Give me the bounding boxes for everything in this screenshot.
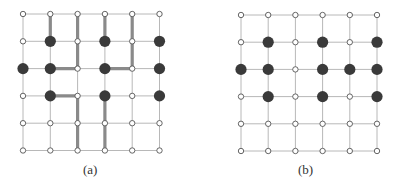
filled-node	[235, 64, 246, 75]
grid-lines	[23, 14, 160, 151]
filled-node	[45, 36, 56, 47]
open-node	[130, 148, 135, 153]
open-node	[320, 121, 325, 126]
open-node	[130, 11, 135, 16]
open-node	[238, 94, 243, 99]
open-node	[75, 148, 80, 153]
open-node	[347, 12, 352, 17]
open-node	[157, 148, 162, 153]
filled-node	[154, 36, 165, 47]
open-node	[130, 66, 135, 71]
open-node	[48, 121, 53, 126]
filled-node	[371, 37, 382, 48]
panel-b	[235, 12, 382, 153]
open-node	[75, 93, 80, 98]
filled-node	[154, 90, 165, 101]
filled-node	[317, 91, 328, 102]
filled-node	[371, 64, 382, 75]
open-node	[75, 66, 80, 71]
open-node	[293, 94, 298, 99]
open-node	[266, 12, 271, 17]
nodes	[235, 12, 382, 153]
filled-node	[371, 91, 382, 102]
open-node	[238, 148, 243, 153]
open-node	[102, 121, 107, 126]
filled-node	[154, 63, 165, 74]
open-node	[266, 121, 271, 126]
open-node	[130, 39, 135, 44]
open-node	[293, 12, 298, 17]
lattice-diagram	[0, 0, 396, 186]
filled-node	[99, 90, 110, 101]
open-node	[75, 121, 80, 126]
grid-lines	[241, 15, 377, 151]
open-node	[20, 93, 25, 98]
open-node	[157, 121, 162, 126]
filled-node	[263, 64, 274, 75]
open-node	[130, 121, 135, 126]
open-node	[347, 94, 352, 99]
open-node	[374, 121, 379, 126]
open-node	[102, 11, 107, 16]
open-node	[374, 148, 379, 153]
open-node	[102, 148, 107, 153]
open-node	[374, 12, 379, 17]
open-node	[293, 121, 298, 126]
filled-node	[45, 63, 56, 74]
filled-node	[317, 37, 328, 48]
open-node	[320, 12, 325, 17]
open-node	[347, 121, 352, 126]
open-node	[293, 148, 298, 153]
panel-a-label: (a)	[83, 162, 97, 178]
filled-node	[263, 91, 274, 102]
open-node	[266, 148, 271, 153]
open-node	[347, 148, 352, 153]
open-node	[238, 121, 243, 126]
open-node	[130, 93, 135, 98]
open-node	[293, 40, 298, 45]
filled-node	[317, 64, 328, 75]
open-node	[347, 40, 352, 45]
open-node	[20, 148, 25, 153]
open-node	[157, 11, 162, 16]
open-node	[48, 148, 53, 153]
open-node	[75, 11, 80, 16]
filled-node	[99, 63, 110, 74]
filled-node	[263, 37, 274, 48]
open-node	[293, 67, 298, 72]
open-node	[48, 11, 53, 16]
nodes	[17, 11, 165, 153]
filled-node	[17, 63, 28, 74]
filled-node	[99, 36, 110, 47]
open-node	[20, 121, 25, 126]
open-node	[320, 148, 325, 153]
open-node	[238, 40, 243, 45]
open-node	[20, 11, 25, 16]
highlight-paths	[50, 14, 132, 151]
filled-node	[344, 64, 355, 75]
filled-node	[45, 90, 56, 101]
open-node	[20, 39, 25, 44]
open-node	[238, 12, 243, 17]
open-node	[75, 39, 80, 44]
panel-a	[17, 11, 165, 153]
panel-b-label: (b)	[298, 162, 313, 178]
